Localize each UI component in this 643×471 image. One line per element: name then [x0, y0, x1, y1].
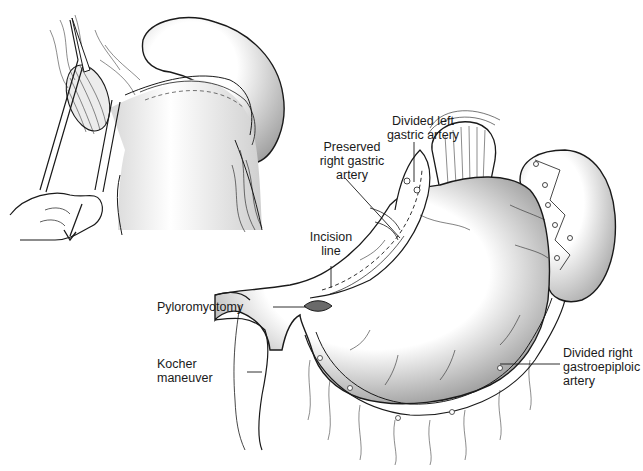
inset-panel: [10, 15, 284, 240]
inset-stomach: [110, 80, 262, 230]
inset-hand: [10, 193, 102, 240]
label-line: line: [306, 244, 356, 258]
label-kocher-maneuver: Kocher maneuver: [157, 357, 213, 385]
label-line: Divided left: [378, 114, 468, 128]
label-line: Pyloromyotomy: [157, 300, 243, 314]
label-line: artery: [563, 374, 640, 388]
label-line: Kocher: [157, 357, 213, 371]
label-pyloromyotomy: Pyloromyotomy: [157, 300, 243, 314]
label-divided-left-gastric-artery: Divided left gastric artery: [378, 114, 468, 142]
label-line: right gastric: [312, 154, 392, 168]
label-line: Divided right: [563, 346, 640, 360]
label-line: gastroepiploic: [563, 360, 640, 374]
label-line: maneuver: [157, 371, 213, 385]
label-line: artery: [312, 168, 392, 182]
main-panel: [215, 111, 615, 465]
label-incision-line: Incision line: [306, 230, 356, 258]
label-divided-right-gastroepiploic-artery: Divided right gastroepiploic artery: [563, 346, 640, 388]
label-line: Incision: [306, 230, 356, 244]
label-preserved-right-gastric-artery: Preserved right gastric artery: [312, 140, 392, 182]
label-line: Preserved: [312, 140, 392, 154]
